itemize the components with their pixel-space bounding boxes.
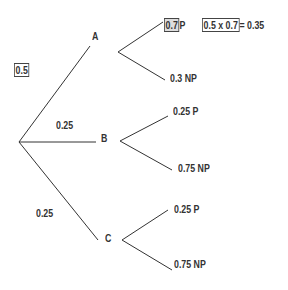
a-p-label: P <box>179 19 185 31</box>
c-p-outcome: 0.25 P <box>174 203 199 215</box>
node-c: C <box>105 232 111 244</box>
branch-b-children <box>120 116 172 170</box>
b-np-outcome: 0.75 NP <box>178 162 210 174</box>
branch-c-children <box>122 210 172 270</box>
calc-expr-box: 0.5 x 0.7 <box>202 18 239 32</box>
b-p-outcome: 0.25 P <box>173 105 198 117</box>
node-a: A <box>92 30 98 42</box>
calculation: 0.5 x 0.7= 0.35 <box>202 19 264 31</box>
root-probability-box: 0.5 <box>14 63 29 77</box>
prob-b-label: 0.25 <box>56 119 73 131</box>
prob-c-label: 0.25 <box>36 207 53 219</box>
a-p-outcome: 0.7P <box>164 19 185 31</box>
c-np-outcome: 0.75 NP <box>174 258 206 270</box>
branch-root-c <box>19 142 98 240</box>
a-p-prob-box: 0.7 <box>164 18 179 32</box>
calc-result: = 0.35 <box>239 19 264 31</box>
tree-lines <box>0 0 288 290</box>
branch-root-a <box>19 46 90 142</box>
node-b: B <box>101 132 107 144</box>
branch-a-children <box>118 22 165 80</box>
a-np-outcome: 0.3 NP <box>170 72 197 84</box>
